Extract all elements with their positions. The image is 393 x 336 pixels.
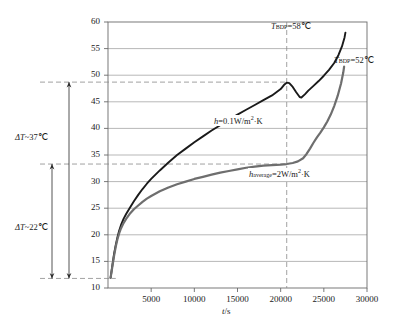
y-tick-label: 25 [78, 202, 100, 212]
y-tick-label: 50 [78, 69, 100, 79]
x-tick-label: 30000 [343, 294, 391, 304]
annotation-h-average: haverage=2W/m2·K [248, 168, 311, 179]
y-tick-label: 35 [78, 149, 100, 159]
annotation-tbdp-58: TBDP=58℃ [271, 21, 311, 31]
chart-svg [0, 0, 393, 336]
chart-background [0, 0, 393, 336]
chart-figure: 1015202530354045505560 50001000015000200… [0, 0, 393, 336]
tbdp58-value: =58℃ [287, 21, 310, 31]
x-axis-title-unit: /s [225, 306, 231, 316]
annotation-delta-t-22: ΔT~22℃ [15, 222, 48, 232]
dt22-value: ~22℃ [25, 222, 48, 232]
annotation-h-0-1: h=0.1W/m2·K [213, 115, 264, 126]
y-tick-label: 20 [78, 229, 100, 239]
y-tick-label: 55 [78, 43, 100, 53]
dt22-symbol: ΔT [15, 222, 25, 232]
y-tick-label: 15 [78, 255, 100, 265]
x-tick-label: 25000 [300, 294, 348, 304]
tbdp52-value: =52℃ [350, 55, 373, 65]
x-tick-label: 20000 [257, 294, 305, 304]
tbdp58-subscript: BDP [276, 24, 288, 30]
y-tick-label: 60 [78, 16, 100, 26]
x-tick-label: 10000 [170, 294, 218, 304]
x-tick-label: 15000 [214, 294, 262, 304]
annotation-tbdp-52: TBDP=52℃ [334, 55, 374, 65]
havg-subscript: average [253, 172, 272, 178]
y-tick-label: 40 [78, 122, 100, 132]
tbdp52-subscript: BDP [339, 58, 351, 64]
x-tick-label: 5000 [127, 294, 175, 304]
y-tick-label: 30 [78, 176, 100, 186]
havg-value: =2W/m [272, 169, 298, 179]
dt37-symbol: ΔT [15, 132, 25, 142]
annotation-delta-t-37: ΔT~37℃ [15, 132, 48, 142]
h01-value: =0.1W/m [218, 116, 250, 126]
h01-unit: ·K [254, 116, 263, 126]
havg-unit: ·K [301, 169, 310, 179]
x-axis-title: t/s [222, 306, 231, 316]
y-tick-label: 10 [78, 282, 100, 292]
y-tick-label: 45 [78, 96, 100, 106]
dt37-value: ~37℃ [25, 132, 48, 142]
